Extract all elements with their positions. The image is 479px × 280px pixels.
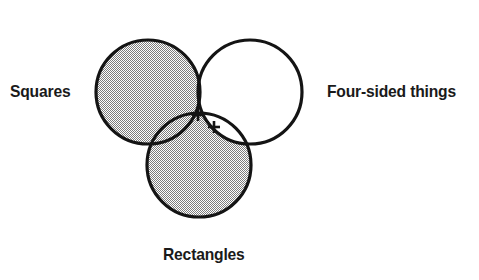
label-squares: Squares	[10, 83, 70, 100]
venn-diagram-svg	[0, 0, 479, 280]
label-rectangles: Rectangles	[163, 246, 245, 263]
label-four-sided-things: Four-sided things	[327, 83, 456, 100]
venn-diagram-figure: Squares Four-sided things Rectangles	[0, 0, 479, 280]
